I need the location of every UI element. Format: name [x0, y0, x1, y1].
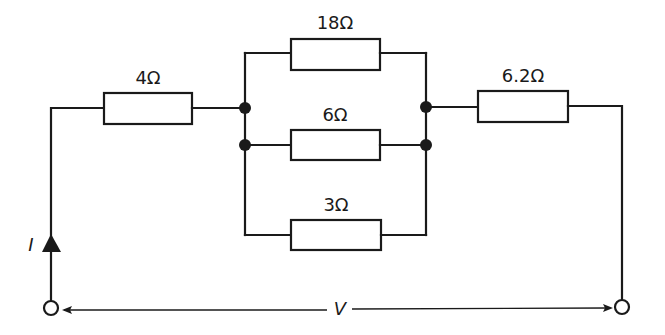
terminal-right — [615, 300, 629, 314]
junction-dot-right-top — [420, 101, 432, 113]
terminal-left — [44, 301, 58, 315]
wire-right — [568, 106, 622, 299]
wire-left — [51, 108, 104, 301]
resistor-label-6.2-ohm: 6.2Ω — [502, 67, 544, 85]
junction-dot-left-top — [239, 102, 251, 114]
circuit-diagram: 4Ω 18Ω 6Ω 3Ω 6.2Ω I V — [0, 0, 665, 335]
resistor-3-ohm — [291, 220, 381, 250]
junction-dot-left-bottom — [239, 139, 251, 151]
current-arrow-icon — [42, 234, 61, 252]
resistor-4-ohm — [104, 93, 192, 124]
resistor-6-ohm — [291, 130, 380, 160]
resistor-label-6-ohm: 6Ω — [322, 106, 347, 124]
junction-dot-right-bottom — [420, 139, 432, 151]
resistor-6.2-ohm — [478, 91, 568, 122]
voltage-line-right — [352, 308, 607, 309]
resistor-label-18-ohm: 18Ω — [317, 14, 354, 32]
circuit-schematic — [0, 0, 665, 335]
resistor-label-4-ohm: 4Ω — [135, 69, 160, 87]
current-label: I — [28, 236, 33, 254]
resistor-label-3-ohm: 3Ω — [323, 196, 348, 214]
voltage-label: V — [334, 300, 346, 318]
resistor-18-ohm — [291, 39, 380, 70]
